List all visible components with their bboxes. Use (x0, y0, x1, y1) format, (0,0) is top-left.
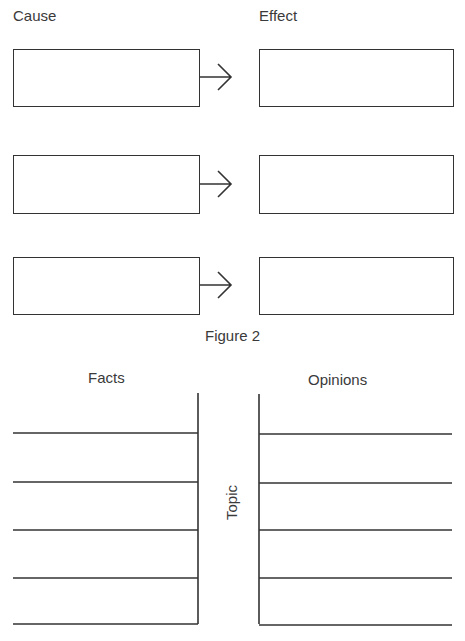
facts-heading: Facts (88, 369, 125, 386)
topic-label: Topic (223, 478, 240, 528)
figure-caption: Figure 2 (200, 327, 265, 344)
facts-lines (13, 393, 198, 624)
diagram-lines (0, 0, 465, 641)
arrow-icon (200, 64, 231, 90)
opinions-heading: Opinions (308, 371, 367, 388)
opinions-lines (259, 394, 452, 625)
arrow-icon (200, 171, 231, 197)
arrow-icon (200, 272, 231, 298)
